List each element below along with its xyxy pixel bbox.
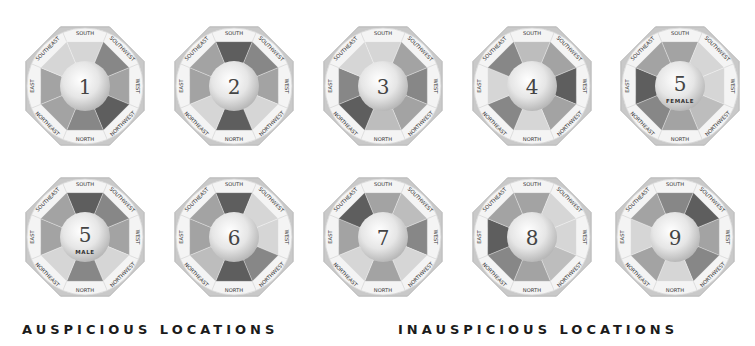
direction-label: NORTH <box>225 136 243 142</box>
compass-chart-5-male: SOUTHSOUTHWESTWESTNORTHWESTNORTHNORTHEAS… <box>26 178 144 296</box>
compass-chart-9: SOUTHSOUTHWESTWESTNORTHWESTNORTHNORTHEAS… <box>616 178 734 296</box>
direction-label: NORTH <box>523 136 541 142</box>
gender-label: MALE <box>75 249 94 255</box>
direction-label: EAST <box>619 230 625 244</box>
kua-number: 5 <box>79 223 92 247</box>
direction-label: WEST <box>433 79 439 95</box>
direction-label: SOUTH <box>76 181 94 187</box>
compass-diagram-grid: SOUTHSOUTHWESTWESTNORTHWESTNORTHNORTHEAS… <box>0 0 755 346</box>
direction-label: EAST <box>29 230 35 244</box>
compass-chart-2: SOUTHSOUTHWESTWESTNORTHWESTNORTHNORTHEAS… <box>175 27 293 145</box>
direction-label: NORTH <box>225 287 243 293</box>
kua-number: 9 <box>669 226 682 250</box>
direction-label: SOUTH <box>225 181 243 187</box>
direction-label: NORTH <box>666 287 684 293</box>
direction-label: SOUTH <box>76 30 94 36</box>
direction-label: WEST <box>284 79 290 95</box>
direction-label: SOUTH <box>671 30 689 36</box>
direction-label: WEST <box>725 230 731 246</box>
direction-label: EAST <box>624 79 630 93</box>
direction-label: EAST <box>29 79 35 93</box>
compass-chart-6: SOUTHSOUTHWESTWESTNORTHWESTNORTHNORTHEAS… <box>175 178 293 296</box>
direction-label: NORTH <box>671 136 689 142</box>
direction-label: EAST <box>327 230 333 244</box>
compass-chart-8: SOUTHSOUTHWESTWESTNORTHWESTNORTHNORTHEAS… <box>473 178 591 296</box>
direction-label: WEST <box>730 79 736 95</box>
kua-number: 2 <box>228 75 241 99</box>
direction-label: NORTH <box>76 287 94 293</box>
inauspicious-locations-caption: INAUSPICIOUS LOCATIONS <box>398 322 678 337</box>
auspicious-locations-caption: AUSPICIOUS LOCATIONS <box>22 322 278 337</box>
direction-label: WEST <box>582 230 588 246</box>
direction-label: WEST <box>135 230 141 246</box>
direction-label: SOUTH <box>374 181 392 187</box>
direction-label: WEST <box>433 230 439 246</box>
compass-chart-5-female: SOUTHSOUTHWESTWESTNORTHWESTNORTHNORTHEAS… <box>621 27 739 145</box>
direction-label: SOUTH <box>523 30 541 36</box>
kua-number: 7 <box>377 226 390 250</box>
direction-label: SOUTH <box>666 181 684 187</box>
direction-label: NORTH <box>374 287 392 293</box>
direction-label: WEST <box>582 79 588 95</box>
direction-label: WEST <box>135 79 141 95</box>
kua-number: 6 <box>228 226 241 250</box>
direction-label: NORTH <box>374 136 392 142</box>
compass-chart-1: SOUTHSOUTHWESTWESTNORTHWESTNORTHNORTHEAS… <box>26 27 144 145</box>
compass-chart-3: SOUTHSOUTHWESTWESTNORTHWESTNORTHNORTHEAS… <box>324 27 442 145</box>
gender-label: FEMALE <box>666 98 694 104</box>
direction-label: EAST <box>476 230 482 244</box>
kua-number: 8 <box>526 226 539 250</box>
compass-chart-4: SOUTHSOUTHWESTWESTNORTHWESTNORTHNORTHEAS… <box>473 27 591 145</box>
kua-number: 5 <box>674 72 687 96</box>
kua-number: 1 <box>79 75 92 99</box>
direction-label: EAST <box>178 230 184 244</box>
direction-label: SOUTH <box>225 30 243 36</box>
kua-number: 3 <box>377 75 390 99</box>
compass-chart-7: SOUTHSOUTHWESTWESTNORTHWESTNORTHNORTHEAS… <box>324 178 442 296</box>
direction-label: NORTH <box>523 287 541 293</box>
direction-label: EAST <box>327 79 333 93</box>
direction-label: EAST <box>476 79 482 93</box>
charts-layer: SOUTHSOUTHWESTWESTNORTHWESTNORTHNORTHEAS… <box>26 27 739 296</box>
direction-label: SOUTH <box>523 181 541 187</box>
direction-label: NORTH <box>76 136 94 142</box>
direction-label: SOUTH <box>374 30 392 36</box>
direction-label: WEST <box>284 230 290 246</box>
kua-number: 4 <box>526 75 539 99</box>
direction-label: EAST <box>178 79 184 93</box>
